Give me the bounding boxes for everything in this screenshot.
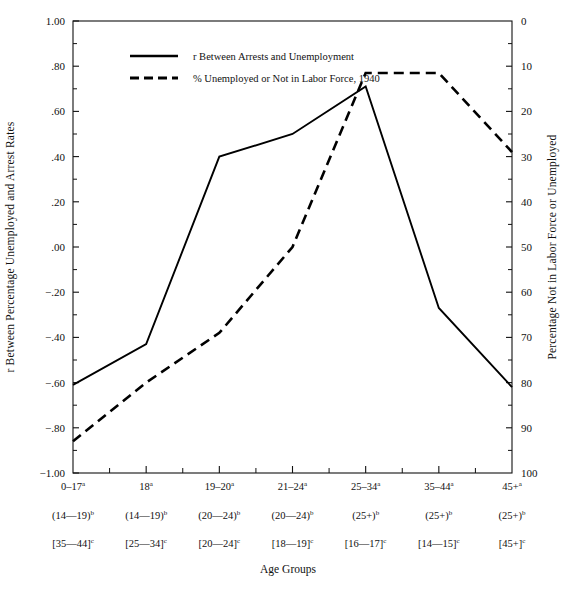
y-axis-title: r Between Percentage Unemployed and Arre… xyxy=(4,121,17,372)
x-cat-row1-label: 18a xyxy=(139,480,154,492)
series-line-1 xyxy=(73,87,512,388)
left-axis-tick-label: −.20 xyxy=(45,286,65,298)
x-cat-row2-label: (20—24)b xyxy=(272,509,315,522)
x-cat-row3-item: [35—44]c xyxy=(52,537,94,549)
left-axis-tick-label: .60 xyxy=(51,105,65,117)
right-axis-tick-label: 10 xyxy=(521,60,533,72)
x-cat-row1-item: 19–20a xyxy=(205,480,235,492)
right-axis-tick-label: 100 xyxy=(521,467,538,479)
chart-figure: 1.00.80.60.40.20.00−.20−.40−.60−.80−1.00… xyxy=(0,0,570,589)
x-cat-row2-label: (25+)b xyxy=(425,509,452,522)
x-cat-row1-item: 35–44a xyxy=(424,480,454,492)
x-cat-row1-label: 45+a xyxy=(502,480,522,492)
left-axis-tick-label: −.80 xyxy=(45,422,65,434)
left-axis-tick-label: .20 xyxy=(51,196,65,208)
left-axis-tick-label: .80 xyxy=(51,60,65,72)
y2-axis-title: Percentage Not in Labor Force or Unemplo… xyxy=(546,134,559,359)
right-axis-tick-label: 20 xyxy=(521,105,533,117)
x-cat-row3-item: [45+]c xyxy=(499,537,526,549)
x-cat-row2-item: (25+)b xyxy=(425,509,452,522)
x-cat-row2-item: (20—24)b xyxy=(198,509,240,522)
x-cat-row1-item: 0–17a xyxy=(61,480,86,492)
x-cat-row2-label: (25+)b xyxy=(499,509,526,522)
right-axis-tick-label: 70 xyxy=(521,331,533,343)
left-axis-tick-label: .40 xyxy=(51,151,65,163)
right-axis-tick-label: 40 xyxy=(521,196,533,208)
x-cat-row1-label: 25–34a xyxy=(351,480,381,492)
right-axis-tick-label: 90 xyxy=(521,422,533,434)
left-axis-tick-label: −.40 xyxy=(45,331,65,343)
right-axis-tick-label: 80 xyxy=(521,377,533,389)
x-cat-row1-label: 0–17a xyxy=(61,480,86,492)
right-axis-tick-label: 50 xyxy=(521,241,533,253)
x-cat-row3-label: [14—15]c xyxy=(418,537,460,549)
x-cat-row3-label: [16—17]c xyxy=(345,537,387,549)
x-cat-row1-label: 35–44a xyxy=(424,480,454,492)
x-cat-row1-item: 45+a xyxy=(502,480,522,492)
x-cat-row1-item: 25–34a xyxy=(351,480,381,492)
x-cat-row3-label: [18—19]c xyxy=(272,537,314,549)
right-axis-tick-label: 0 xyxy=(521,15,527,27)
series-line-2 xyxy=(73,73,512,441)
x-cat-row2-item: (20—24)b xyxy=(272,509,315,522)
right-axis: 0102030405060708090100 xyxy=(506,15,538,479)
left-axis-tick-label: 1.00 xyxy=(46,15,66,27)
x-cat-row2-label: (14—19)b xyxy=(52,509,95,522)
x-cat-row2-item: (25+)b xyxy=(352,509,379,522)
left-axis-tick-label: −1.00 xyxy=(40,467,66,479)
x-cat-row3-item: [25—34]c xyxy=(125,537,167,549)
bottom-axis xyxy=(110,466,476,473)
x-cat-row3-label: [20—24]c xyxy=(199,537,241,549)
x-cat-row2-item: (14—19)b xyxy=(125,509,168,522)
x-cat-row1-label: 21–24a xyxy=(278,480,308,492)
x-cat-row1-item: 21–24a xyxy=(278,480,308,492)
chart-canvas: 1.00.80.60.40.20.00−.20−.40−.60−.80−1.00… xyxy=(0,0,570,589)
right-axis-tick-label: 30 xyxy=(521,151,533,163)
x-cat-row3-item: [14—15]c xyxy=(418,537,460,549)
x-cat-row3-label: [25—34]c xyxy=(125,537,167,549)
x-cat-row3-label: [35—44]c xyxy=(52,537,94,549)
right-axis-tick-label: 60 xyxy=(521,286,533,298)
x-cat-row3-item: [20—24]c xyxy=(199,537,241,549)
x-cat-row2-item: (14—19)b xyxy=(52,509,95,522)
x-cat-row2-label: (14—19)b xyxy=(125,509,168,522)
x-cat-row1-item: 18a xyxy=(139,480,154,492)
x-category-labels: 0–17a18a19–20a21–24a25–34a35–44a45+a(14—… xyxy=(52,480,526,549)
x-axis-title: Age Groups xyxy=(260,563,316,576)
x-cat-row3-label: [45+]c xyxy=(499,537,526,549)
x-cat-row2-item: (25+)b xyxy=(499,509,526,522)
chart-legend: r Between Arrests and Unemployment% Unem… xyxy=(130,51,380,84)
left-axis-tick-label: .00 xyxy=(51,241,65,253)
x-cat-row3-item: [18—19]c xyxy=(272,537,314,549)
x-cat-row3-item: [16—17]c xyxy=(345,537,387,549)
legend-label-2: % Unemployed or Not in Labor Force, 1940 xyxy=(193,73,380,84)
left-axis-tick-label: −.60 xyxy=(45,377,65,389)
legend-label-1: r Between Arrests and Unemployment xyxy=(193,51,354,62)
x-cat-row1-label: 19–20a xyxy=(205,480,235,492)
x-cat-row2-label: (20—24)b xyxy=(198,509,240,522)
x-cat-row2-label: (25+)b xyxy=(352,509,379,522)
series-layer xyxy=(73,73,512,441)
